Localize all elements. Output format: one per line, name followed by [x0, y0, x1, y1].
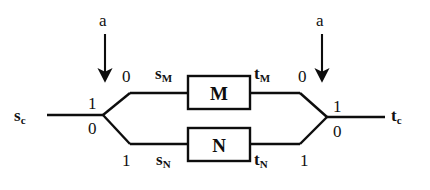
- right-junction-top-digit: 1: [333, 98, 342, 115]
- upper-branch-input-base: s: [155, 64, 162, 83]
- upper-branch-exit-digit: 0: [298, 68, 307, 85]
- left-junction-top-digit: 1: [88, 95, 97, 112]
- output-signal-base: t: [391, 106, 397, 125]
- input-signal-base: s: [14, 106, 21, 125]
- lower-branch-entry-digit: 1: [122, 152, 131, 169]
- lower-branch-output-signal-label: tN: [254, 151, 268, 168]
- right-junction-bottom-digit: 0: [333, 123, 342, 140]
- diagram-canvas: a a sc tc 1 0 1 0 0 0 1 1 sM tM sN tN M …: [0, 0, 430, 190]
- block-n-label: N: [188, 136, 250, 155]
- upper-branch-entry-digit: 0: [122, 68, 131, 85]
- left-control-arrow-label: a: [99, 12, 107, 29]
- lower-branch-input-base: s: [156, 150, 163, 169]
- lower-branch-merge-diagonal: [300, 117, 327, 144]
- upper-branch-merge-diagonal: [300, 93, 327, 117]
- left-junction-bottom-digit: 0: [88, 120, 97, 137]
- upper-branch-output-subscript: M: [260, 72, 270, 84]
- right-control-arrow-label: a: [316, 12, 324, 29]
- upper-branch-output-signal-label: tM: [254, 65, 270, 82]
- output-signal-label: tc: [391, 107, 402, 124]
- output-signal-subscript: c: [397, 114, 402, 126]
- left-junction-lower-diagonal: [103, 115, 130, 144]
- lower-branch-output-base: t: [254, 150, 260, 169]
- upper-branch-input-subscript: M: [162, 72, 172, 84]
- lower-branch-input-subscript: N: [163, 158, 171, 170]
- input-signal-subscript: c: [21, 114, 26, 126]
- lower-branch-exit-digit: 1: [300, 152, 309, 169]
- upper-branch-output-base: t: [254, 64, 260, 83]
- lower-branch-output-subscript: N: [260, 158, 268, 170]
- lower-branch-input-signal-label: sN: [156, 151, 171, 168]
- upper-branch-input-signal-label: sM: [155, 65, 172, 82]
- left-junction-upper-diagonal: [103, 93, 130, 115]
- input-signal-label: sc: [14, 107, 26, 124]
- block-m-label: M: [188, 84, 250, 103]
